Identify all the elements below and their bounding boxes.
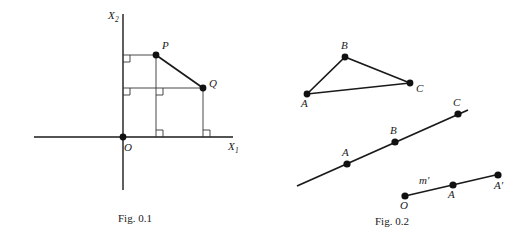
label-x2-subscript: 2: [115, 15, 119, 24]
line-m-point-c-dot: [454, 110, 461, 117]
line-m-prime-point-a-prime-dot: [494, 171, 501, 178]
line-m: [297, 110, 468, 186]
line-m-label-a: A: [341, 146, 349, 158]
point-p-dot: [153, 52, 160, 59]
diagram-svg: O P Q X 2 X 1 A B C A B C: [0, 0, 521, 243]
fig-0-2-group: A B C A B C O A A' m': [297, 39, 504, 211]
label-x1-subscript: 1: [235, 146, 239, 155]
line-m-label-b: B: [390, 124, 397, 136]
right-angle-marker-crossing: [156, 88, 163, 95]
triangle-label-b: B: [341, 39, 348, 51]
line-m-point-a-dot: [343, 160, 350, 167]
right-angle-marker-p-axis: [123, 55, 130, 62]
label-p: P: [161, 39, 169, 51]
line-m-point-b-dot: [391, 138, 398, 145]
triangle-abc: [307, 57, 410, 94]
point-o-dot: [120, 134, 127, 141]
figure-1-caption: Fig. 0.1: [118, 212, 152, 224]
line-m-label-c: C: [453, 96, 461, 108]
right-angle-marker-q-axis: [123, 88, 130, 95]
triangle-label-a: A: [300, 97, 308, 109]
fig-0-1-group: O P Q X 2 X 1: [34, 9, 239, 190]
right-angle-marker-q-foot: [203, 130, 210, 137]
figure-canvas: O P Q X 2 X 1 A B C A B C: [0, 0, 521, 243]
label-q: Q: [209, 77, 217, 89]
line-m-prime-label-o: O: [400, 199, 408, 211]
triangle-vertex-c-dot: [407, 80, 414, 87]
triangle-label-c: C: [416, 82, 424, 94]
point-q-dot: [200, 85, 207, 92]
line-m-prime-label-a-prime: A': [493, 179, 504, 191]
segment-pq: [156, 55, 203, 88]
line-m-prime-label: m': [419, 174, 430, 186]
label-o: O: [124, 141, 132, 153]
triangle-vertex-b-dot: [342, 54, 349, 61]
line-m-prime-label-a: A: [447, 188, 455, 200]
right-angle-marker-p-foot: [156, 130, 163, 137]
figure-2-caption: Fig. 0.2: [375, 215, 409, 227]
